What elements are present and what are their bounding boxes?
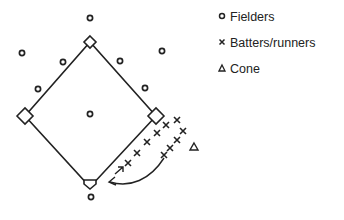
fielder-icon [87, 15, 92, 20]
fielder-icon [117, 58, 122, 63]
legend-item-fielders: Fielders [218, 10, 274, 24]
legend-item-cone: Cone [218, 62, 260, 76]
batter-runner-icon [154, 130, 160, 136]
fielder-icon [159, 48, 164, 53]
batter-runner-icon [163, 122, 169, 128]
x-icon [218, 36, 230, 50]
arrowhead-icon [109, 177, 116, 185]
batter-runner-icon [174, 137, 180, 143]
legend-item-batters: Batters/runners [218, 36, 315, 50]
fielder-icon [60, 59, 65, 64]
batter-runner-icon [161, 152, 167, 158]
triangle-icon [218, 62, 230, 76]
batter-runner-icon [180, 128, 186, 134]
fielder-icon [87, 111, 92, 116]
cone-icon [190, 143, 198, 150]
batter-runner-icon [134, 150, 140, 156]
arrow-to-first-icon [115, 167, 123, 174]
legend-label: Fielders [230, 10, 274, 24]
circle-icon [218, 10, 230, 24]
batter-runner-icon [174, 117, 180, 123]
fielder-icon [35, 86, 40, 91]
fielder-icon [142, 85, 147, 90]
legend-label: Cone [230, 62, 260, 76]
legend-label: Batters/runners [230, 36, 315, 50]
field-diagram [0, 0, 344, 220]
home-plate-icon [84, 180, 96, 189]
batter-runner-icon [167, 145, 173, 151]
batter-runner-icon [125, 160, 131, 166]
batter-runner-icon [144, 139, 150, 145]
fielder-icon [88, 194, 93, 199]
fielder-icon [19, 50, 24, 55]
